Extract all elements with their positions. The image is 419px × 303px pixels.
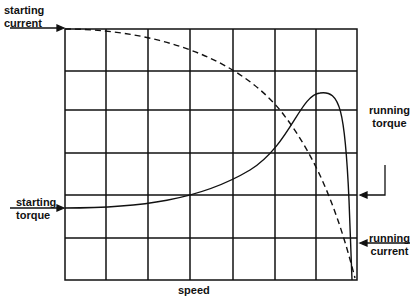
running-torque-label: running torque	[369, 104, 410, 130]
starting-current-label: starting current	[4, 4, 44, 30]
label-line: running	[369, 232, 410, 245]
label-line: torque	[16, 209, 56, 222]
starting-torque-label: starting torque	[16, 196, 56, 222]
label-line: starting	[16, 196, 56, 209]
label-line: current	[4, 17, 44, 30]
x-axis-label: speed	[178, 284, 210, 297]
label-line: running	[369, 104, 410, 117]
grid	[65, 29, 357, 280]
label-line: torque	[369, 117, 410, 130]
chart-canvas	[0, 0, 419, 303]
running-current-label: running current	[369, 232, 410, 258]
label-line: starting	[4, 4, 44, 17]
torque-curve	[65, 93, 352, 280]
label-line: current	[369, 245, 410, 258]
plot-frame	[65, 29, 357, 280]
